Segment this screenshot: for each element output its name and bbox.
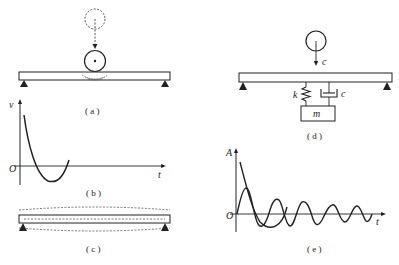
diagram-canvas: ( a ) v t O ( b ) ( c ) c k bbox=[0, 0, 399, 265]
arrow-down-icon bbox=[93, 44, 98, 49]
origin-label-b: O bbox=[9, 163, 16, 174]
x-axis-label-b: t bbox=[158, 169, 161, 180]
origin-label-e: O bbox=[226, 210, 233, 221]
support-left-icon bbox=[239, 82, 247, 90]
velocity-curve bbox=[24, 115, 69, 182]
beam-d bbox=[239, 73, 392, 82]
support-right-icon bbox=[161, 80, 169, 87]
y-axis-arrow-icon bbox=[18, 99, 22, 104]
mass-label: m bbox=[313, 108, 320, 119]
y-axis-label-b: v bbox=[9, 99, 14, 110]
caption-c: ( c ) bbox=[86, 244, 101, 254]
support-left-icon bbox=[19, 223, 27, 231]
caption-e: ( e ) bbox=[307, 244, 322, 254]
x-axis-arrow-icon bbox=[161, 164, 166, 168]
x-axis-label-e: t bbox=[376, 216, 379, 227]
deflection-lower-dashed bbox=[19, 228, 170, 231]
y-axis-label-e: A bbox=[225, 147, 233, 158]
arrow-down-icon bbox=[314, 61, 318, 66]
x-axis-arrow-icon bbox=[381, 212, 386, 216]
panel-c: ( c ) bbox=[19, 207, 170, 254]
panel-e: A t O ( e ) bbox=[225, 147, 386, 254]
spring-icon bbox=[302, 87, 310, 101]
support-right-icon bbox=[161, 223, 169, 231]
velocity-label: c bbox=[322, 56, 327, 67]
response-curve-2 bbox=[237, 188, 372, 226]
deflection-upper-dashed bbox=[19, 207, 170, 210]
panel-d: c k c m ( d ) bbox=[239, 31, 392, 141]
caption-a: ( a ) bbox=[85, 106, 100, 116]
caption-b: ( b ) bbox=[86, 188, 101, 198]
y-axis-arrow-icon bbox=[234, 148, 238, 153]
panel-a: ( a ) bbox=[19, 9, 170, 116]
support-left-icon bbox=[20, 80, 28, 87]
support-right-icon bbox=[383, 82, 391, 90]
caption-d: ( d ) bbox=[307, 131, 322, 141]
damper-label: c bbox=[341, 88, 346, 99]
spring-label: k bbox=[293, 89, 298, 100]
ball-center-dot bbox=[94, 60, 96, 62]
response-curve-1 bbox=[240, 162, 287, 227]
